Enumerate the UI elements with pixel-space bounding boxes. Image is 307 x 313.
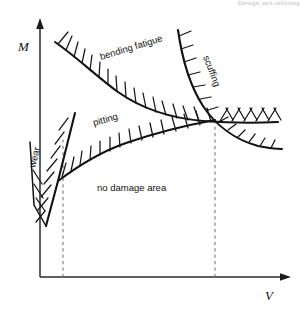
label-no-damage-area: no damage area <box>97 182 167 193</box>
label-pitting: pitting <box>92 110 119 128</box>
gear-damage-diagram: Design and refitting M V <box>0 0 307 313</box>
y-axis-label: M <box>17 39 30 54</box>
pitting-curve <box>58 120 215 181</box>
x-axis-arrowhead <box>280 273 291 281</box>
y-axis-arrowhead <box>36 18 44 29</box>
x-axis-label: V <box>265 288 275 303</box>
label-bending-fatigue: bending fatigue <box>98 32 163 62</box>
bending-fatigue-curve <box>55 42 278 123</box>
figure-canvas: M V <box>0 0 307 313</box>
wear-wedge-group <box>30 113 75 226</box>
scuffing-curve-group <box>178 30 282 149</box>
wear-right-leg <box>46 113 75 226</box>
label-scuffing: scuffing <box>201 54 223 88</box>
bending-fatigue-curve-group <box>55 32 278 123</box>
right-region-hatching <box>220 108 281 121</box>
scuffing-curve <box>178 30 282 149</box>
